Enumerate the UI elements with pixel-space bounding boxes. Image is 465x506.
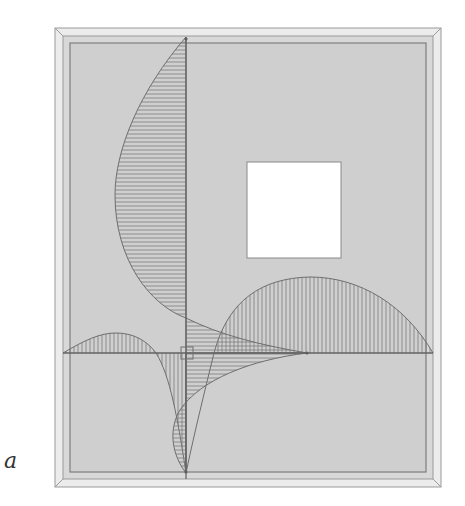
panel-label: a [4, 448, 17, 473]
top-point [184, 37, 187, 40]
bottom-point [184, 470, 187, 473]
diagram-figure [0, 0, 465, 506]
cusp-point [305, 351, 308, 354]
white-window [247, 162, 341, 258]
